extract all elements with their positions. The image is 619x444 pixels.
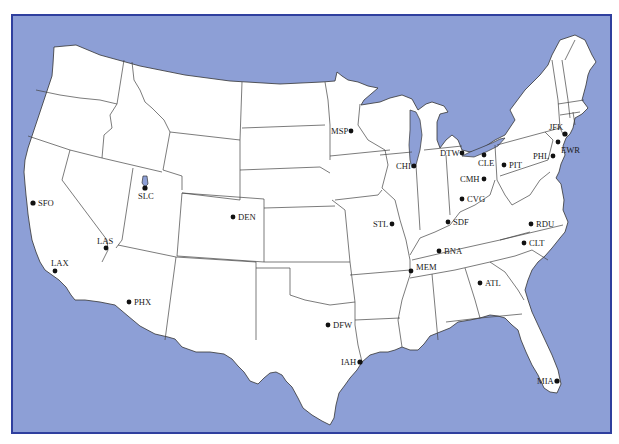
airport-label: DEN <box>238 212 256 222</box>
airport-label: PIT <box>509 160 523 170</box>
airport-dot <box>529 222 534 227</box>
airport-dot <box>522 241 527 246</box>
airport-label: STL <box>373 219 388 229</box>
airport-dot <box>412 164 417 169</box>
airport-label: RDU <box>536 219 555 229</box>
airport-label: CLT <box>529 238 545 248</box>
airport-dot <box>460 197 465 202</box>
airport-dot <box>437 249 442 254</box>
airport-dot <box>556 140 561 145</box>
airport-dot <box>460 151 465 156</box>
airport-label: ATL <box>485 278 501 288</box>
airport-dot <box>142 185 147 190</box>
airport-label: SFO <box>38 198 54 208</box>
airport-dot <box>30 200 35 205</box>
airport-label: MEM <box>416 262 437 272</box>
airport-label: MIA <box>537 376 555 386</box>
airport-dot <box>562 131 567 136</box>
airport-dot <box>231 215 236 220</box>
airport-label: EWR <box>561 145 580 155</box>
airport-dot <box>551 154 556 159</box>
airport-dot <box>104 246 109 251</box>
airport-dot <box>349 129 354 134</box>
airport-label: JFK <box>549 122 564 132</box>
airport-label: CLE <box>478 158 494 168</box>
airport-label: LAX <box>51 258 69 268</box>
airport-dot <box>502 163 507 168</box>
airport-label: IAH <box>341 357 356 367</box>
airport-label: CHI <box>396 161 411 171</box>
us-airport-map: SFO SLC DEN LAS LAX PHX MSP CHI DTW CLE … <box>0 0 619 444</box>
airport-dot <box>127 300 132 305</box>
airport-dot <box>554 378 559 383</box>
airport-dot <box>326 323 331 328</box>
airport-dot <box>482 153 487 158</box>
airport-label: PHL <box>533 151 549 161</box>
airport-dot <box>357 359 362 364</box>
airport-dot <box>53 269 58 274</box>
airport-label: CVG <box>467 194 485 204</box>
airport-label: DFW <box>333 320 353 330</box>
airport-label: SDF <box>453 217 469 227</box>
airport-dot <box>390 222 395 227</box>
airport-dot <box>409 269 414 274</box>
airport-label: BNA <box>444 246 463 256</box>
airport-label: CMH <box>460 174 480 184</box>
airport-label: MSP <box>331 126 348 136</box>
airport-label: PHX <box>134 297 152 307</box>
airport-label: DTW <box>440 148 460 158</box>
airport-dot <box>478 281 483 286</box>
airport-dot <box>482 177 487 182</box>
airport-label: LAS <box>97 236 113 246</box>
airport-dot <box>446 220 451 225</box>
airport-label: SLC <box>138 191 154 201</box>
